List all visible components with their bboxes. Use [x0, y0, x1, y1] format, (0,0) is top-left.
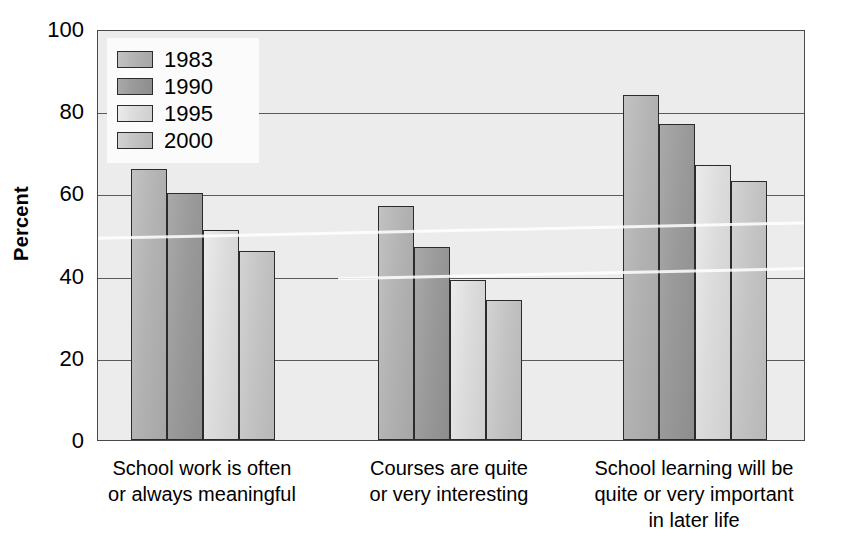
y-axis-tick-label: 60	[22, 183, 84, 205]
y-axis-tick-label: 100	[22, 19, 84, 41]
y-axis-tick-label: 0	[22, 430, 84, 452]
bar-group	[623, 31, 767, 440]
bar	[486, 300, 522, 440]
bar	[695, 165, 731, 440]
bar	[414, 247, 450, 440]
bar-group	[378, 31, 522, 440]
bar	[131, 169, 167, 440]
legend-label: 1983	[164, 49, 213, 71]
legend: 1983199019952000	[107, 38, 259, 163]
bar	[203, 230, 239, 440]
bar	[659, 124, 695, 440]
legend-label: 1995	[164, 103, 213, 125]
legend-item[interactable]: 1995	[117, 100, 249, 127]
bar	[450, 280, 486, 440]
bar	[378, 206, 414, 440]
bar-chart: Percent 100806040200 1983199019952000 Sc…	[0, 0, 868, 558]
bar	[239, 251, 275, 440]
legend-label: 2000	[164, 130, 213, 152]
bar	[623, 95, 659, 440]
y-axis-tick-label: 80	[22, 101, 84, 123]
legend-item[interactable]: 1990	[117, 73, 249, 100]
legend-label: 1990	[164, 76, 213, 98]
legend-item[interactable]: 2000	[117, 127, 249, 154]
bar	[731, 181, 767, 440]
y-axis-tick-label: 20	[22, 348, 84, 370]
legend-swatch	[117, 105, 153, 122]
y-axis-tick-label: 40	[22, 266, 84, 288]
legend-swatch	[117, 78, 153, 95]
legend-swatch	[117, 132, 153, 149]
x-axis-category-label: Courses are quite or very interesting	[319, 455, 579, 507]
bar	[167, 193, 203, 440]
x-axis-category-label: School work is often or always meaningfu…	[72, 455, 332, 507]
legend-item[interactable]: 1983	[117, 46, 249, 73]
x-axis-category-label: School learning will be quite or very im…	[564, 455, 824, 533]
legend-swatch	[117, 51, 153, 68]
